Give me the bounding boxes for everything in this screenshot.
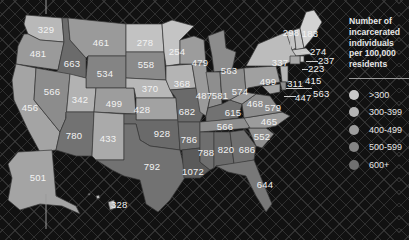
legend-title-line: residents bbox=[349, 59, 409, 70]
label-tn: 566 bbox=[217, 122, 233, 132]
label-pa: 499 bbox=[260, 77, 276, 87]
legend-swatch-icon bbox=[349, 107, 359, 117]
label-wa: 329 bbox=[38, 25, 54, 35]
label-oh: 574 bbox=[232, 87, 248, 97]
state-ri[interactable] bbox=[300, 56, 304, 62]
leader-nh bbox=[301, 52, 309, 53]
label-ks: 428 bbox=[134, 105, 150, 115]
label-hi: 328 bbox=[111, 200, 127, 210]
label-nc: 465 bbox=[261, 117, 277, 127]
label-ak: 501 bbox=[30, 173, 46, 183]
legend-title-line: per 100,000 bbox=[349, 48, 409, 59]
state-hi-small-1 bbox=[96, 195, 100, 199]
legend-item: 500-599 bbox=[349, 138, 409, 156]
legend-item: >300 bbox=[349, 86, 409, 104]
legend-label: 300-399 bbox=[369, 107, 402, 117]
label-ct: 415 bbox=[305, 76, 321, 86]
label-mo: 682 bbox=[179, 107, 195, 117]
label-ms: 788 bbox=[198, 148, 214, 158]
legend-swatch-icon bbox=[349, 125, 359, 135]
label-id: 663 bbox=[64, 59, 80, 69]
label-sd: 558 bbox=[138, 60, 154, 70]
label-wi: 479 bbox=[192, 58, 208, 68]
us-map bbox=[0, 0, 399, 229]
legend-swatch-icon bbox=[349, 160, 359, 170]
legend-item: 600+ bbox=[349, 156, 409, 174]
label-va: 579 bbox=[265, 103, 281, 113]
label-ga: 686 bbox=[239, 145, 255, 155]
label-fl: 644 bbox=[257, 180, 273, 190]
label-vt: 298 bbox=[283, 28, 299, 38]
legend-title-line: incarcerated bbox=[349, 27, 409, 38]
legend-divider bbox=[349, 78, 409, 79]
state-hi-small-2 bbox=[88, 193, 90, 195]
legend-title-line: Number of bbox=[349, 16, 409, 27]
legend-swatch-icon bbox=[349, 142, 359, 152]
label-ca: 456 bbox=[22, 103, 38, 113]
label-mn: 254 bbox=[169, 47, 185, 57]
label-ia: 368 bbox=[174, 79, 190, 89]
leader-de bbox=[286, 88, 312, 89]
state-ct[interactable] bbox=[290, 56, 300, 64]
label-sc: 552 bbox=[254, 132, 270, 142]
label-wy: 534 bbox=[97, 69, 113, 79]
legend-item: 300-399 bbox=[349, 103, 409, 121]
legend-label: 500-599 bbox=[369, 142, 402, 152]
leader-vt bbox=[290, 38, 291, 48]
label-or: 481 bbox=[30, 49, 46, 59]
label-ri: 223 bbox=[308, 64, 324, 74]
label-il: 487 bbox=[196, 91, 212, 101]
label-nv: 566 bbox=[44, 87, 60, 97]
legend: Number of incarcerated individuals per 1… bbox=[349, 16, 409, 173]
label-tx: 792 bbox=[144, 162, 160, 172]
legend-swatch-icon bbox=[349, 90, 359, 100]
legend-label: >300 bbox=[369, 90, 389, 100]
label-me: 183 bbox=[302, 29, 318, 39]
label-az: 780 bbox=[66, 131, 82, 141]
label-ok: 928 bbox=[154, 129, 170, 139]
label-la: 1072 bbox=[182, 167, 204, 177]
label-ny: 337 bbox=[272, 58, 288, 68]
label-ut: 342 bbox=[72, 95, 88, 105]
legend-label: 400-499 bbox=[369, 125, 402, 135]
label-mt: 461 bbox=[93, 38, 109, 48]
legend-item: 400-499 bbox=[349, 121, 409, 139]
label-in: 581 bbox=[212, 91, 228, 101]
legend-label: 600+ bbox=[369, 160, 389, 170]
label-nd: 278 bbox=[137, 38, 153, 48]
leader-ma bbox=[306, 61, 318, 62]
legend-title: Number of incarcerated individuals per 1… bbox=[349, 16, 409, 70]
label-de: 563 bbox=[313, 89, 329, 99]
label-md: 447 bbox=[295, 93, 311, 103]
legend-title-line: individuals bbox=[349, 38, 409, 49]
label-ky: 615 bbox=[225, 108, 241, 118]
label-co: 499 bbox=[106, 99, 122, 109]
label-al: 820 bbox=[218, 145, 234, 155]
label-mi: 563 bbox=[221, 66, 237, 76]
label-ar: 786 bbox=[181, 135, 197, 145]
label-nm: 433 bbox=[100, 134, 116, 144]
label-ne: 370 bbox=[142, 84, 158, 94]
label-wv: 468 bbox=[247, 99, 263, 109]
